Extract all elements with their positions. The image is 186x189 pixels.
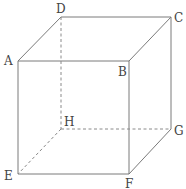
vertex-label-D: D — [56, 2, 66, 16]
edge-BC — [129, 17, 171, 61]
vertex-label-G: G — [174, 124, 184, 138]
hidden-edge-HE — [18, 129, 61, 174]
vertex-label-F: F — [125, 177, 133, 189]
cube-diagram: D C A B H G E F — [0, 0, 186, 189]
vertex-label-C: C — [174, 11, 183, 25]
vertex-label-H: H — [64, 115, 74, 129]
vertex-label-E: E — [4, 169, 13, 183]
vertex-label-A: A — [3, 54, 13, 68]
vertex-label-B: B — [118, 65, 127, 79]
edge-DA — [18, 17, 61, 61]
edge-FG — [129, 129, 171, 174]
